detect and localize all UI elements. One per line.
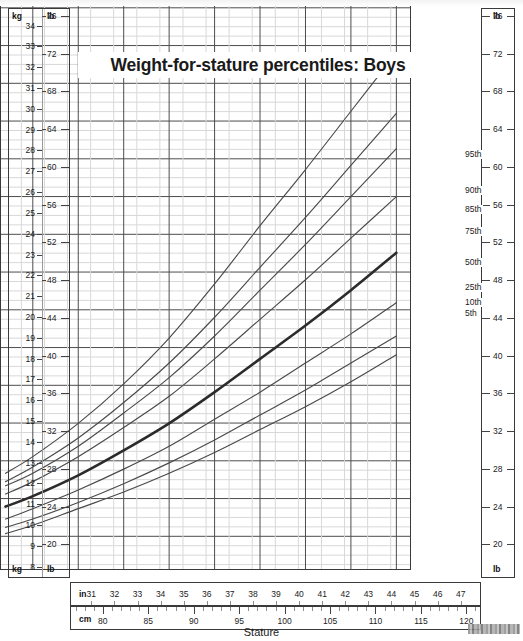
cm-tick-mark (430, 607, 431, 611)
lb-tick-right-56: 56 (493, 201, 502, 210)
kg-tick-24: 24 (9, 230, 35, 239)
kg-tick-mark (37, 109, 42, 110)
cm-tick-mark (203, 607, 204, 611)
in-tick-41: 41 (317, 590, 326, 599)
lb-tick-mark (482, 280, 490, 281)
cm-tick-95: 95 (234, 617, 243, 626)
lb-tick-mark (507, 469, 514, 470)
lb-tick-mark (42, 356, 46, 357)
lb-tick-mark (507, 91, 514, 92)
lb-tick-mark (42, 431, 46, 432)
kg-tick-mark (37, 379, 42, 380)
in-tick-33: 33 (133, 590, 142, 599)
lb-tick-mark (61, 242, 69, 243)
cm-tick-mark (239, 607, 240, 614)
kg-tick-mark (37, 234, 42, 235)
in-tick-47: 47 (456, 590, 465, 599)
cm-tick-mark (130, 607, 131, 611)
lb-tick-mark (61, 431, 69, 432)
in-tick-42: 42 (341, 590, 350, 599)
lb-tick-mark (482, 167, 490, 168)
lb-tick-left-44: 44 (47, 314, 56, 323)
lb-tick-mark (42, 91, 46, 92)
left-axis-gutter: kg lb kg lb 8910111213141516171819202122… (8, 8, 70, 578)
in-tick-mark (345, 601, 346, 605)
in-tick-mark (184, 601, 185, 605)
lb-tick-mark (42, 469, 46, 470)
lb-tick-mark (42, 318, 46, 319)
lb-tick-left-56: 56 (47, 201, 56, 210)
lb-tick-mark (482, 544, 490, 545)
lb-tick-mark (507, 280, 514, 281)
right-axis-gutter: lb lb 202428323640444852566064687276 (481, 8, 515, 578)
cm-tick-mark (348, 607, 349, 611)
in-tick-34: 34 (156, 590, 165, 599)
cm-tick-mark (303, 607, 304, 611)
cm-tick-105: 105 (323, 617, 337, 626)
lb-tick-mark (482, 469, 490, 470)
kg-tick-27: 27 (9, 167, 35, 176)
kg-tick-29: 29 (9, 126, 35, 135)
scan-artifact (468, 624, 520, 634)
lb-tick-mark (61, 16, 69, 17)
lb-tick-mark (482, 356, 490, 357)
kg-tick-11: 11 (9, 500, 35, 509)
in-tick-mark (415, 601, 416, 605)
cm-tick-mark (257, 607, 258, 611)
lb-tick-left-40: 40 (47, 352, 56, 361)
kg-tick-mark (37, 442, 42, 443)
lb-tick-right-28: 28 (493, 465, 502, 474)
lb-tick-mark (42, 507, 46, 508)
in-tick-mark (114, 601, 115, 605)
lb-tick-mark (61, 205, 69, 206)
lb-tick-mark (61, 129, 69, 130)
lb-tick-mark (507, 167, 514, 168)
lb-tick-mark (482, 242, 490, 243)
lb-tick-mark (61, 91, 69, 92)
kg-tick-17: 17 (9, 375, 35, 384)
lb-header-bottom: lb (47, 565, 55, 574)
cm-tick-mark (375, 607, 376, 614)
kg-tick-mark (37, 504, 42, 505)
lb-tick-mark (507, 129, 514, 130)
cm-tick-mark (230, 607, 231, 611)
lb-tick-mark (42, 129, 46, 130)
lb-tick-mark (482, 16, 490, 17)
lb-tick-right-24: 24 (493, 503, 502, 512)
lb-tick-mark (42, 393, 46, 394)
lb-tick-left-76: 76 (47, 12, 56, 21)
lb-tick-right-68: 68 (493, 87, 502, 96)
in-tick-mark (438, 601, 439, 605)
lb-tick-mark (42, 280, 46, 281)
kg-tick-mark (37, 88, 42, 89)
lb-tick-right-40: 40 (493, 352, 502, 361)
percentile-label-90th: 90th (464, 186, 483, 195)
lb-tick-mark (482, 54, 490, 55)
cm-tick-90: 90 (189, 617, 198, 626)
lb-tick-mark (482, 318, 490, 319)
kg-tick-20: 20 (9, 313, 35, 322)
cm-tick-mark (412, 607, 413, 611)
cm-tick-mark (457, 607, 458, 611)
percentile-label-50th: 50th (464, 258, 483, 267)
kg-tick-mark (37, 46, 42, 47)
in-tick-35: 35 (179, 590, 188, 599)
cm-tick-85: 85 (144, 617, 153, 626)
cm-tick-mark (76, 607, 77, 611)
cm-tick-80: 80 (98, 617, 107, 626)
lb-tick-mark (61, 393, 69, 394)
lb-tick-mark (482, 393, 490, 394)
lb-tick-mark (42, 205, 46, 206)
lb-tick-mark (507, 318, 514, 319)
lb-tick-mark (482, 205, 490, 206)
in-tick-mark (322, 601, 323, 605)
lb-tick-mark (507, 507, 514, 508)
cm-tick-115: 115 (414, 617, 428, 626)
kg-tick-mark (37, 255, 42, 256)
in-tick-31: 31 (87, 590, 96, 599)
inches-axis: in 3132333435363738394041424344454647 (70, 582, 481, 606)
cm-tick-mark (266, 607, 267, 611)
cm-tick-100: 100 (277, 617, 291, 626)
kg-tick-33: 33 (9, 42, 35, 51)
kg-tick-mark (37, 296, 42, 297)
